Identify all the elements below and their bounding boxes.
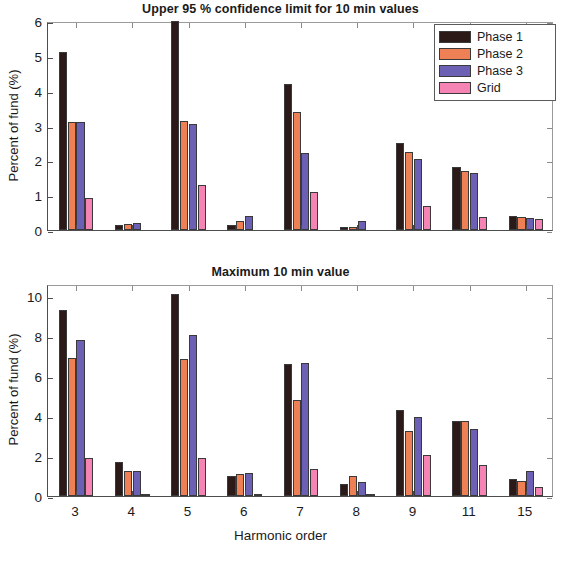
- bar: [245, 216, 253, 230]
- bar: [310, 469, 318, 496]
- bar: [293, 112, 301, 230]
- y-tick-mark: [48, 378, 53, 379]
- x-tick-mark: [245, 286, 246, 291]
- bar: [340, 227, 348, 230]
- y-tick-mark: [547, 498, 552, 499]
- x-tick-mark: [301, 225, 302, 230]
- y-tick-mark: [547, 232, 552, 233]
- x-tick-label: 3: [71, 504, 79, 519]
- legend-item: Grid: [439, 80, 551, 96]
- bar: [245, 473, 253, 496]
- bar: [301, 153, 309, 230]
- bar: [470, 173, 478, 230]
- y-tick-label: 2: [34, 154, 42, 169]
- x-axis-label: Harmonic order: [0, 528, 561, 543]
- x-tick-mark: [470, 225, 471, 230]
- bar: [115, 225, 123, 230]
- bar: [358, 482, 366, 496]
- bar: [76, 340, 84, 496]
- x-tick-mark: [413, 23, 414, 28]
- y-axis-label-lower: Percent of fund (%): [6, 315, 21, 465]
- bar: [405, 431, 413, 496]
- x-tick-mark: [470, 286, 471, 291]
- y-tick-label: 0: [34, 224, 42, 239]
- bar: [124, 224, 132, 230]
- bar: [423, 455, 431, 496]
- bar: [461, 421, 469, 496]
- y-tick-mark: [48, 197, 53, 198]
- y-tick-label: 0: [34, 490, 42, 505]
- x-tick-mark: [76, 23, 77, 28]
- bar: [198, 185, 206, 230]
- bar: [452, 167, 460, 230]
- legend-label: Phase 1: [477, 31, 523, 44]
- legend-item: Phase 2: [439, 46, 551, 62]
- bar: [479, 465, 487, 496]
- bar: [423, 206, 431, 230]
- bar: [141, 494, 149, 496]
- y-tick-label: 5: [34, 49, 42, 64]
- bar: [340, 484, 348, 496]
- bar: [180, 359, 188, 496]
- y-tick-label: 4: [34, 84, 42, 99]
- x-tick-mark: [132, 23, 133, 28]
- chart-title-upper: Upper 95 % confidence limit for 10 min v…: [0, 2, 561, 16]
- y-tick-mark: [547, 128, 552, 129]
- bar: [180, 121, 188, 230]
- bar: [396, 410, 404, 496]
- bar: [517, 481, 525, 496]
- x-tick-mark: [470, 491, 471, 496]
- bar: [414, 159, 422, 230]
- x-tick-mark: [526, 286, 527, 291]
- y-tick-label: 6: [34, 15, 42, 30]
- bar: [189, 335, 197, 496]
- y-tick-label: 3: [34, 119, 42, 134]
- y-tick-label: 6: [34, 370, 42, 385]
- x-tick-mark: [526, 491, 527, 496]
- x-tick-mark: [189, 286, 190, 291]
- bar: [68, 122, 76, 230]
- bar: [115, 462, 123, 496]
- bar: [133, 471, 141, 496]
- x-tick-mark: [132, 491, 133, 496]
- x-tick-label: 5: [184, 504, 192, 519]
- bar: [59, 52, 67, 230]
- y-tick-mark: [48, 23, 53, 24]
- y-tick-mark: [48, 93, 53, 94]
- y-tick-mark: [547, 298, 552, 299]
- bar: [509, 479, 517, 496]
- x-tick-label: 4: [128, 504, 136, 519]
- x-tick-mark: [189, 491, 190, 496]
- x-tick-label: 11: [462, 504, 476, 519]
- y-tick-mark: [547, 418, 552, 419]
- bar: [414, 417, 422, 496]
- bar: [284, 84, 292, 230]
- x-tick-mark: [357, 491, 358, 496]
- y-tick-mark: [547, 378, 552, 379]
- bar: [85, 198, 93, 230]
- bar: [76, 122, 84, 230]
- x-tick-mark: [189, 23, 190, 28]
- x-tick-mark: [301, 23, 302, 28]
- legend-label: Phase 2: [477, 48, 523, 61]
- chart-title-lower: Maximum 10 min value: [0, 265, 561, 279]
- y-tick-mark: [48, 162, 53, 163]
- x-tick-mark: [357, 225, 358, 230]
- y-tick-label: 2: [34, 450, 42, 465]
- bar: [293, 400, 301, 496]
- bar: [59, 310, 67, 496]
- legend-swatch: [439, 48, 471, 60]
- bar: [509, 216, 517, 230]
- bar: [526, 471, 534, 496]
- x-tick-mark: [413, 491, 414, 496]
- bar: [452, 421, 460, 496]
- bar: [349, 227, 357, 230]
- y-tick-mark: [48, 232, 53, 233]
- y-tick-mark: [48, 418, 53, 419]
- bar: [301, 363, 309, 496]
- bar: [236, 221, 244, 230]
- y-tick-label: 8: [34, 330, 42, 345]
- bar: [526, 218, 534, 230]
- y-tick-mark: [48, 498, 53, 499]
- bar: [358, 221, 366, 230]
